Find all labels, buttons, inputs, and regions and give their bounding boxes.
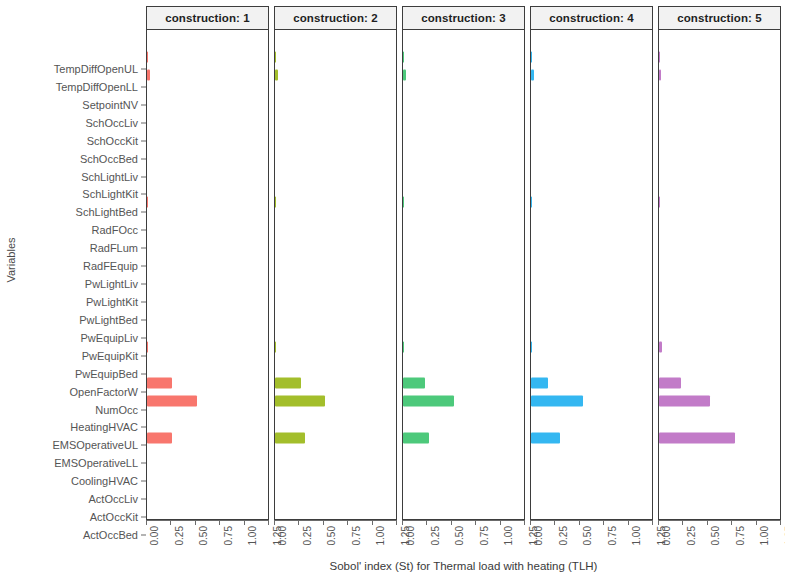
y-tick-label-schlightkit: SchLightKit <box>82 189 138 200</box>
bar-numocc <box>275 378 301 389</box>
y-tick-label-radfocc: RadFOcc <box>92 225 138 236</box>
plot-area-1 <box>146 30 269 520</box>
x-tick-mark <box>731 520 732 525</box>
x-axis-line <box>402 520 525 521</box>
x-tick-mark <box>603 520 604 525</box>
y-tick-label-radflum: RadFLum <box>90 243 138 254</box>
y-axis-title-text: Variables <box>5 237 17 282</box>
x-axis-title: Sobol' index (St) for Thermal load with … <box>146 560 781 572</box>
x-tick-mark <box>244 520 245 525</box>
plot-area-4 <box>530 30 653 520</box>
y-tick-label-emsoperativell: EMSOperativeLL <box>54 458 138 469</box>
bar-pwequipbed <box>659 341 662 352</box>
y-tick-label-coolinghvac: CoolingHVAC <box>71 476 138 487</box>
x-tick-label: 0.25 <box>303 526 313 545</box>
x-tick-mark <box>579 520 580 525</box>
x-tick-label: 1.00 <box>504 526 514 545</box>
x-tick-label-panel-4: 0.000.250.500.751.001.25 <box>530 526 653 556</box>
x-tick-label: 0.50 <box>711 526 721 545</box>
plot-area-3 <box>402 30 525 520</box>
x-tick-mark <box>451 520 452 525</box>
x-tick-label: 0.50 <box>327 526 337 545</box>
x-tick-label: 0.00 <box>534 526 544 545</box>
x-tick-label: 1.00 <box>760 526 770 545</box>
y-tick-label-actoccbed: ActOccBed <box>83 530 138 541</box>
bar-pwequipbed <box>275 341 276 352</box>
bar-heatinghvac <box>531 396 583 407</box>
x-tick-label: 0.75 <box>736 526 746 545</box>
bar-emsoperativell <box>659 432 735 443</box>
x-axis-line <box>274 520 397 521</box>
x-tick-mark <box>682 520 683 525</box>
x-tick-label: 1.00 <box>376 526 386 545</box>
y-tick-label-openfactorw: OpenFactorW <box>70 386 138 397</box>
y-tick-label-pwlightbed: PwLightBed <box>79 314 138 325</box>
bar-emsoperativell <box>403 432 429 443</box>
x-tick-mark <box>396 520 397 525</box>
x-tick-mark <box>756 520 757 525</box>
y-tick-label-heatinghvac: HeatingHVAC <box>70 422 138 433</box>
x-tick-label: 0.50 <box>583 526 593 545</box>
x-tick-label: 0.50 <box>199 526 209 545</box>
y-tick-label-numocc: NumOcc <box>95 404 138 415</box>
x-tick-mark <box>402 520 403 525</box>
x-tick-label: 0.00 <box>150 526 160 545</box>
plot-area-5 <box>658 30 781 520</box>
y-tick-label-tempdiffopenul: TempDiffOpenUL <box>54 63 138 74</box>
x-tick-mark <box>475 520 476 525</box>
x-tick-mark <box>372 520 373 525</box>
y-tick-label-setpointnv: SetpointNV <box>82 99 138 110</box>
bar-heatinghvac <box>275 396 325 407</box>
x-tick-mark <box>554 520 555 525</box>
bar-numocc <box>531 378 548 389</box>
x-tick-label: 0.00 <box>406 526 416 545</box>
y-tick-label-pwlightliv: PwLightLiv <box>85 279 138 290</box>
facet-panel-construction-3: construction: 3 <box>402 6 525 520</box>
plot-area-2 <box>274 30 397 520</box>
x-tick-label-panel-3: 0.000.250.500.751.001.25 <box>402 526 525 556</box>
bar-numocc <box>403 378 425 389</box>
y-axis-ticks: TempDiffOpenULTempDiffOpenLLSetpointNVSc… <box>18 36 146 514</box>
x-tick-mark <box>500 520 501 525</box>
bar-setpointnv <box>147 70 150 81</box>
x-axis-line <box>658 520 781 521</box>
x-tick-mark <box>146 520 147 525</box>
bars-container <box>403 30 524 519</box>
bar-emsoperativell <box>147 432 172 443</box>
bar-numocc <box>147 378 172 389</box>
y-tick-label-schoccbed: SchOccBed <box>80 153 138 164</box>
bar-heatinghvac <box>659 396 710 407</box>
facet-panel-construction-1: construction: 1 <box>146 6 269 520</box>
y-tick-label-actoccliv: ActOccLiv <box>88 494 138 505</box>
bar-heatinghvac <box>403 396 454 407</box>
x-tick-label: 0.75 <box>480 526 490 545</box>
bar-emsoperativell <box>531 432 560 443</box>
x-tick-mark <box>658 520 659 525</box>
x-tick-label-panel-5: 0.000.250.500.751.001.25 <box>658 526 781 556</box>
x-tick-label: 0.25 <box>687 526 697 545</box>
y-tick-label-pwlightkit: PwLightKit <box>86 297 138 308</box>
bar-setpointnv <box>403 70 406 81</box>
bar-heatinghvac <box>147 396 197 407</box>
x-tick-mark <box>268 520 269 525</box>
x-tick-label: 0.25 <box>431 526 441 545</box>
x-tick-label: 1.00 <box>632 526 642 545</box>
facet-panel-construction-2: construction: 2 <box>274 6 397 520</box>
bar-setpointnv <box>531 70 534 81</box>
x-tick-mark <box>524 520 525 525</box>
x-tick-mark <box>530 520 531 525</box>
facet-panel-construction-4: construction: 4 <box>530 6 653 520</box>
x-tick-label-panel-1: 0.000.250.500.751.001.25 <box>146 526 269 556</box>
facet-strip-label-4: construction: 4 <box>530 6 653 30</box>
y-tick-label-emsoperativeul: EMSOperativeUL <box>52 440 138 451</box>
x-tick-label: 0.75 <box>608 526 618 545</box>
x-tick-label: 0.00 <box>278 526 288 545</box>
bar-setpointnv <box>275 70 278 81</box>
chart-root: Variables TempDiffOpenULTempDiffOpenLLSe… <box>0 0 785 579</box>
x-tick-mark <box>195 520 196 525</box>
y-tick-label-schocckit: SchOccKit <box>87 135 138 146</box>
x-tick-mark <box>347 520 348 525</box>
bars-container <box>147 30 268 519</box>
x-tick-label: 0.75 <box>352 526 362 545</box>
bars-container <box>275 30 396 519</box>
